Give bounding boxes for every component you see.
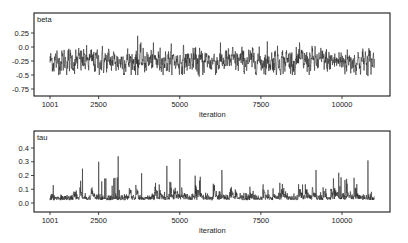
beta-panel: beta 0.250.0-0.25-0.5-0.75 1001250050007… xyxy=(12,13,390,119)
y-tick-label: 0.0 xyxy=(19,43,29,52)
trace-plots: beta 0.250.0-0.25-0.5-0.75 1001250050007… xyxy=(0,0,408,243)
beta-x-axis: 100125005000750010000 xyxy=(42,96,353,109)
y-tick-label: 0.0 xyxy=(19,199,29,208)
beta-x-axis-title: iteration xyxy=(199,110,226,119)
y-tick-label: -0.25 xyxy=(12,57,29,66)
x-tick-label: 2500 xyxy=(90,216,107,225)
beta-panel-title: beta xyxy=(37,15,52,24)
x-tick-label: 1001 xyxy=(42,100,59,109)
tau-x-axis: 100125005000750010000 xyxy=(42,212,353,225)
y-tick-label: 0.1 xyxy=(19,185,29,194)
x-tick-label: 7500 xyxy=(253,216,270,225)
x-tick-label: 7500 xyxy=(253,100,270,109)
tau-x-axis-title: iteration xyxy=(199,226,226,235)
y-tick-label: -0.5 xyxy=(16,71,29,80)
beta-plot-frame xyxy=(34,13,390,96)
x-tick-label: 10000 xyxy=(332,216,353,225)
beta-y-axis: 0.250.0-0.25-0.5-0.75 xyxy=(12,29,34,94)
x-tick-label: 5000 xyxy=(171,216,188,225)
x-tick-label: 2500 xyxy=(90,100,107,109)
y-tick-label: 0.4 xyxy=(19,144,29,153)
tau-y-axis: 0.40.30.20.10.0 xyxy=(19,144,34,208)
x-tick-label: 5000 xyxy=(171,100,188,109)
y-tick-label: 0.3 xyxy=(19,157,29,166)
y-tick-label: 0.2 xyxy=(19,171,29,180)
tau-panel-title: tau xyxy=(37,133,47,142)
y-tick-label: -0.75 xyxy=(12,85,29,94)
x-tick-label: 10000 xyxy=(332,100,353,109)
x-tick-label: 1001 xyxy=(42,216,59,225)
y-tick-label: 0.25 xyxy=(14,29,29,38)
tau-panel: tau 0.40.30.20.10.0 10012500500075001000… xyxy=(19,131,390,235)
